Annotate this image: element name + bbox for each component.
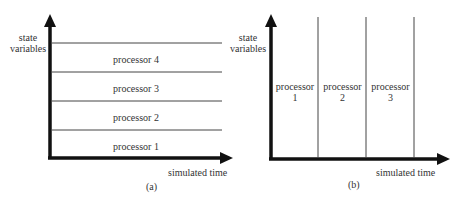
panel-b-y-label-line2: variables [228,43,268,54]
panel-a-x-axis-label: simulated time [168,167,227,178]
panel-a-band-label-3: processor 3 [86,83,186,94]
panel-b-x-axis-label: simulated time [376,167,435,178]
panel-b-col3-line2: 3 [367,92,414,103]
panel-a-band-label-1: processor 1 [86,141,186,152]
panel-b-col1-line1: processor [272,81,318,92]
panel-b-col2-line1: processor [319,81,366,92]
panel-b-column-label-3: processor 3 [367,81,414,103]
panel-b-y-axis-label: state variables [228,32,268,54]
panel-b-caption: (b) [348,179,360,190]
panel-b-x-arrow-icon [437,153,450,165]
panel-a-y-label-line2: variables [8,43,48,54]
panel-b-column-label-1: processor 1 [272,81,318,103]
panel-a-caption: (a) [146,181,157,192]
panel-a-y-arrow-icon [44,14,56,27]
panel-a-y-label-line1: state [8,32,48,43]
panel-a-y-axis-label: state variables [8,32,48,54]
panel-b-col3-line1: processor [367,81,414,92]
panel-b-y-arrow-icon [265,14,277,27]
panel-b-column-label-2: processor 2 [319,81,366,103]
panel-a-band-label-2: processor 2 [86,112,186,123]
panel-b-y-label-line1: state [228,32,268,43]
panel-a-band-label-4: processor 4 [86,54,186,65]
panel-a-x-arrow-icon [220,152,233,164]
panel-b-col1-line2: 1 [272,92,318,103]
panel-b-col2-line2: 2 [319,92,366,103]
